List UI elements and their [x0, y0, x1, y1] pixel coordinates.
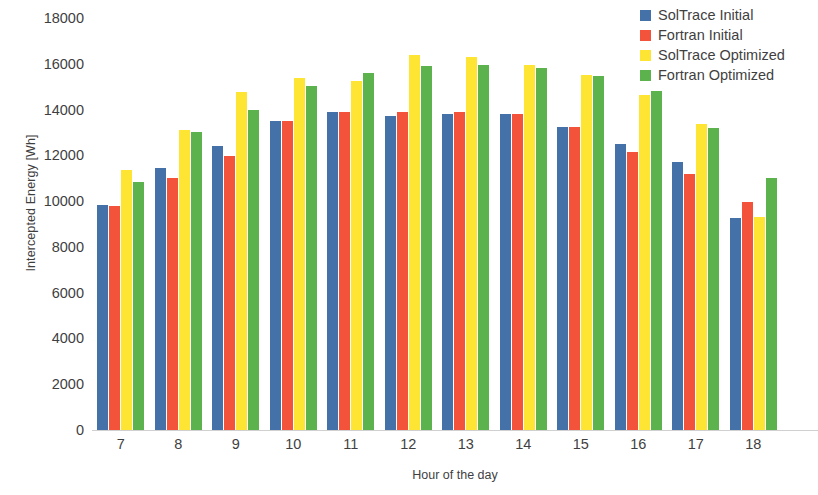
legend-item[interactable]: SolTrace Initial: [640, 8, 785, 23]
y-axis-tick-label: 6000: [22, 285, 84, 301]
bar-fortran-optimized-11: [363, 73, 374, 430]
legend-swatch-icon: [640, 70, 651, 81]
y-axis-tick-label: 4000: [22, 330, 84, 346]
x-axis-tick-label: 9: [232, 436, 240, 452]
bar-group: [380, 18, 438, 430]
x-axis-tick-label: 14: [515, 436, 531, 452]
bar-group: [265, 18, 323, 430]
y-axis-tick-label: 2000: [22, 376, 84, 392]
bar-soltrace-initial-7: [97, 205, 108, 430]
y-axis-tick-label: 12000: [22, 147, 84, 163]
bar-group: [437, 18, 495, 430]
bar-fortran-optimized-17: [708, 128, 719, 430]
x-axis-line: [92, 430, 818, 431]
x-axis-tick-labels: 789101112131415161718: [92, 436, 818, 462]
x-axis-tick-label: 16: [630, 436, 646, 452]
bar-fortran-initial-9: [224, 156, 235, 430]
bar-soltrace-optimized-16: [639, 95, 650, 430]
bar-soltrace-initial-16: [615, 144, 626, 430]
bar-soltrace-optimized-18: [754, 217, 765, 430]
bar-fortran-initial-17: [684, 174, 695, 430]
bar-soltrace-optimized-12: [409, 55, 420, 430]
bar-soltrace-initial-14: [500, 114, 511, 430]
bar-fortran-initial-8: [167, 178, 178, 430]
bar-soltrace-initial-12: [385, 116, 396, 430]
x-axis-title: Hour of the day: [92, 468, 818, 482]
legend-label: Fortran Initial: [658, 28, 743, 43]
bar-soltrace-initial-8: [155, 168, 166, 430]
y-axis-tick-labels: 0200040006000800010000120001400016000180…: [22, 0, 84, 495]
legend-label: SolTrace Optimized: [658, 48, 785, 63]
bar-group: [207, 18, 265, 430]
bar-soltrace-initial-15: [557, 127, 568, 430]
bar-soltrace-optimized-11: [351, 81, 362, 430]
y-axis-tick-label: 14000: [22, 102, 84, 118]
chart-legend: SolTrace InitialFortran InitialSolTrace …: [640, 8, 785, 83]
bar-fortran-initial-18: [742, 202, 753, 430]
bar-soltrace-initial-17: [672, 162, 683, 430]
bar-fortran-optimized-8: [191, 132, 202, 430]
bar-fortran-initial-15: [569, 127, 580, 430]
bar-soltrace-optimized-10: [294, 78, 305, 430]
bar-group: [552, 18, 610, 430]
bar-fortran-initial-14: [512, 114, 523, 430]
x-axis-tick-label: 18: [745, 436, 761, 452]
legend-swatch-icon: [640, 10, 651, 21]
bar-fortran-initial-10: [282, 121, 293, 430]
bar-soltrace-initial-13: [442, 114, 453, 430]
bar-soltrace-optimized-15: [581, 75, 592, 430]
legend-swatch-icon: [640, 30, 651, 41]
legend-item[interactable]: Fortran Optimized: [640, 68, 785, 83]
x-axis-tick-label: 10: [285, 436, 301, 452]
x-axis-tick-label: 15: [573, 436, 589, 452]
bar-soltrace-optimized-9: [236, 92, 247, 430]
bar-group: [150, 18, 208, 430]
y-axis-tick-label: 10000: [22, 193, 84, 209]
bar-soltrace-optimized-7: [121, 170, 132, 430]
bar-fortran-optimized-10: [306, 86, 317, 430]
bar-fortran-optimized-15: [593, 76, 604, 430]
bar-fortran-initial-7: [109, 206, 120, 430]
x-axis-tick-label: 11: [343, 436, 358, 452]
bar-soltrace-optimized-8: [179, 130, 190, 430]
bar-soltrace-initial-9: [212, 146, 223, 430]
legend-label: Fortran Optimized: [658, 68, 774, 83]
x-axis-tick-label: 8: [174, 436, 182, 452]
bar-soltrace-initial-10: [270, 121, 281, 430]
bar-fortran-optimized-14: [536, 68, 547, 430]
bar-fortran-initial-11: [339, 112, 350, 430]
bar-fortran-optimized-9: [248, 110, 259, 430]
bar-soltrace-optimized-17: [696, 124, 707, 430]
legend-item[interactable]: Fortran Initial: [640, 28, 785, 43]
x-axis-tick-label: 7: [117, 436, 125, 452]
bar-fortran-optimized-7: [133, 182, 144, 430]
bar-chart: Intercepted Energy [Wh] 0200040006000800…: [0, 0, 818, 495]
legend-label: SolTrace Initial: [658, 8, 753, 23]
x-axis-tick-label: 17: [688, 436, 704, 452]
bar-fortran-optimized-18: [766, 178, 777, 430]
bar-fortran-initial-16: [627, 152, 638, 430]
bar-fortran-initial-12: [397, 112, 408, 430]
bar-fortran-optimized-12: [421, 66, 432, 430]
bar-soltrace-optimized-14: [524, 65, 535, 430]
y-axis-tick-label: 18000: [22, 10, 84, 26]
bar-soltrace-initial-18: [730, 218, 741, 430]
bar-fortran-initial-13: [454, 112, 465, 430]
y-axis-tick-label: 0: [22, 422, 84, 438]
bar-group: [92, 18, 150, 430]
x-axis-tick-label: 12: [400, 436, 416, 452]
legend-item[interactable]: SolTrace Optimized: [640, 48, 785, 63]
bar-fortran-optimized-16: [651, 91, 662, 430]
y-axis-tick-label: 8000: [22, 239, 84, 255]
bar-group: [322, 18, 380, 430]
legend-swatch-icon: [640, 50, 651, 61]
bar-soltrace-initial-11: [327, 112, 338, 430]
bar-fortran-optimized-13: [478, 65, 489, 430]
y-axis-tick-label: 16000: [22, 56, 84, 72]
x-axis-tick-label: 13: [458, 436, 474, 452]
bar-soltrace-optimized-13: [466, 57, 477, 430]
bar-group: [495, 18, 553, 430]
